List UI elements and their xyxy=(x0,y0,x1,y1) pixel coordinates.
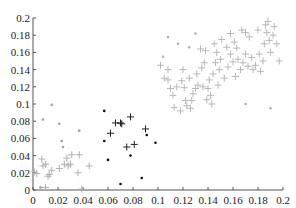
cross-marker xyxy=(211,40,218,47)
cross-marker xyxy=(45,173,52,180)
cross-marker xyxy=(257,68,264,75)
cross-marker xyxy=(171,104,178,111)
cross-marker xyxy=(276,58,283,65)
cross-marker xyxy=(245,63,252,70)
cross-marker xyxy=(208,101,215,108)
cross-marker xyxy=(227,51,234,58)
cross-marker xyxy=(233,45,240,52)
cross-marker xyxy=(205,85,212,92)
y-tick-label: 0.14 xyxy=(11,64,31,76)
x-tick-label: 0.18 xyxy=(248,194,268,206)
dot-marker xyxy=(103,140,106,143)
cross-marker xyxy=(227,30,234,37)
cross-marker xyxy=(118,120,125,127)
series-cluster-high-light-crosses xyxy=(157,18,283,114)
dot-marker xyxy=(119,183,122,186)
cross-marker xyxy=(270,32,277,39)
cross-marker xyxy=(260,58,267,65)
x-tick-label: 0.1 xyxy=(151,194,165,206)
cross-marker xyxy=(223,44,230,51)
cross-marker xyxy=(213,49,220,56)
cross-marker xyxy=(202,47,209,54)
cross-marker xyxy=(197,45,204,52)
y-tick-label: 0.1 xyxy=(16,98,30,110)
series-cluster-mid-dark-crosses xyxy=(107,113,149,150)
cross-marker xyxy=(232,73,239,80)
y-tick-label: 0.2 xyxy=(16,12,30,24)
dot-marker xyxy=(58,122,61,125)
cross-marker xyxy=(68,151,75,158)
cross-marker xyxy=(203,96,210,103)
cross-marker xyxy=(200,83,207,90)
dot-marker xyxy=(140,177,143,180)
dot-marker xyxy=(50,104,53,107)
x-tick-label: 0.06 xyxy=(98,194,118,206)
cross-marker xyxy=(210,70,217,77)
cross-marker xyxy=(215,82,222,89)
y-tick-label: 0.08 xyxy=(11,115,31,127)
dot-marker xyxy=(42,118,45,121)
x-tick-label: 0.02 xyxy=(48,194,67,206)
cross-marker xyxy=(165,66,172,73)
scatter-chart: 00.020.040.060.080.10.120.140.160.180.2 … xyxy=(0,0,296,208)
cross-marker xyxy=(193,70,200,77)
x-tick-label: 0 xyxy=(30,194,36,206)
cross-marker xyxy=(180,66,187,73)
cross-marker xyxy=(181,84,188,91)
cross-marker xyxy=(255,27,262,34)
data-points xyxy=(31,18,283,193)
dot-marker xyxy=(244,103,247,106)
cross-marker xyxy=(218,36,225,43)
cross-marker xyxy=(256,51,263,58)
cross-marker xyxy=(61,161,68,168)
dot-marker xyxy=(145,134,148,137)
cross-marker xyxy=(178,77,185,84)
cross-marker xyxy=(212,59,219,66)
cross-marker xyxy=(266,37,273,44)
dot-marker xyxy=(129,154,132,157)
cross-marker xyxy=(188,97,195,104)
cross-marker xyxy=(165,76,172,83)
y-tick-label: 0.16 xyxy=(11,46,31,58)
cross-marker xyxy=(182,97,189,104)
x-tick-label: 0.14 xyxy=(198,194,218,206)
dot-marker xyxy=(60,140,63,143)
cross-marker xyxy=(231,39,238,46)
y-ticks: 00.020.040.060.080.10.120.140.160.180.2 xyxy=(11,12,36,196)
cross-marker xyxy=(267,49,274,56)
x-tick-label: 0.12 xyxy=(173,194,192,206)
cross-marker xyxy=(75,169,82,176)
cross-marker xyxy=(207,92,214,99)
cross-marker xyxy=(131,141,138,148)
cross-marker xyxy=(261,40,268,47)
y-tick-label: 0.12 xyxy=(11,81,30,93)
dot-marker xyxy=(162,55,165,58)
cross-marker xyxy=(216,66,223,73)
cross-marker xyxy=(173,83,180,90)
cross-marker xyxy=(56,165,63,172)
cross-marker xyxy=(123,144,130,151)
cross-marker xyxy=(221,75,228,82)
cross-marker xyxy=(240,59,247,66)
y-tick-label: 0.02 xyxy=(11,167,30,179)
dot-marker xyxy=(78,129,81,132)
cross-marker xyxy=(217,56,224,63)
cross-marker xyxy=(263,29,270,36)
cross-marker xyxy=(186,75,193,82)
dot-marker xyxy=(103,110,106,113)
x-tick-label: 0.16 xyxy=(223,194,243,206)
cross-marker xyxy=(157,62,164,69)
dot-marker xyxy=(177,43,180,46)
cross-marker xyxy=(225,64,232,71)
y-tick-label: 0.04 xyxy=(11,150,31,162)
cross-marker xyxy=(237,66,244,73)
cross-marker xyxy=(271,23,278,30)
x-tick-label: 0.08 xyxy=(123,194,143,206)
dot-marker xyxy=(167,36,170,39)
dot-marker xyxy=(154,141,157,144)
cross-marker xyxy=(127,113,134,120)
cross-marker xyxy=(161,75,168,82)
x-tick-label: 0.04 xyxy=(73,194,93,206)
cross-marker xyxy=(170,92,177,99)
dot-marker xyxy=(194,32,197,35)
